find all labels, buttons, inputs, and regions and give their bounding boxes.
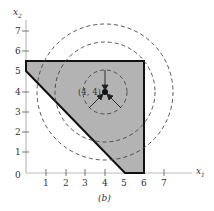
y-tick-label: 7	[15, 27, 21, 36]
optimal-point	[102, 89, 108, 95]
point-label: (4, 4)	[78, 88, 101, 97]
x-tick-label: 3	[82, 179, 88, 188]
y-tick-label: 0	[15, 171, 21, 180]
x-tick-label: 7	[161, 179, 167, 188]
x-tick-label: 5	[121, 179, 127, 188]
figure-caption: (b)	[98, 194, 111, 203]
y-axis-label: x2	[13, 8, 22, 19]
x-axis-label: x1	[196, 167, 205, 178]
y-tick-label: 5	[15, 67, 21, 76]
y-tick-label: 3	[15, 108, 21, 117]
x-tick-label: 2	[63, 179, 69, 188]
x-tick-label: 4	[102, 179, 108, 188]
y-tick-label: 2	[15, 128, 21, 137]
y-tick-label: 1	[15, 148, 21, 157]
y-tick-label: 6	[15, 47, 21, 56]
x-tick-label: 1	[43, 179, 49, 188]
y-tick-label: 4	[15, 88, 21, 97]
x-tick-label: 6	[141, 179, 147, 188]
